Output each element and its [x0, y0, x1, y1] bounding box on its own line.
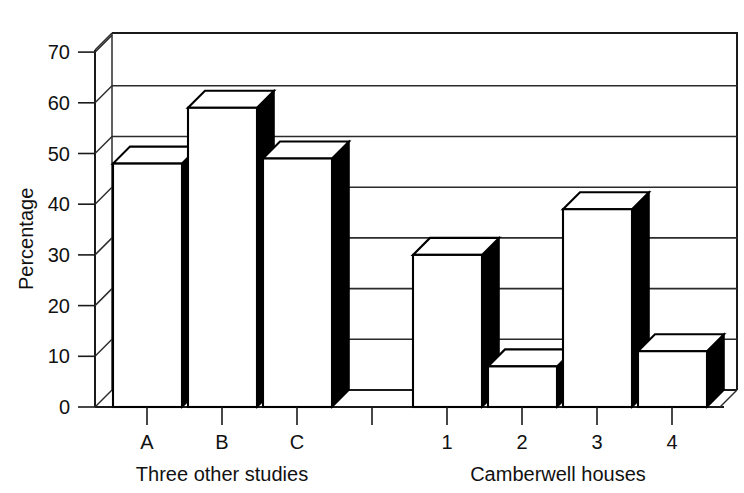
cropped-caption-fragment	[47, 0, 647, 9]
x-axis-ticks	[147, 407, 672, 425]
bar-2-front	[488, 366, 557, 407]
bar-1-front	[413, 255, 482, 407]
bar-4	[638, 334, 724, 407]
group-label-three-other-studies: Three other studies	[136, 463, 308, 485]
ytick-label-60: 60	[48, 92, 70, 114]
bar-C-front	[263, 159, 332, 408]
xlabel-B: B	[215, 431, 228, 453]
xlabel-1: 1	[441, 431, 452, 453]
bar-3-front	[563, 209, 632, 407]
bar-A-front	[113, 164, 182, 407]
y-axis-title: Percentage	[15, 188, 37, 290]
bar-C	[263, 142, 349, 408]
ytick-label-10: 10	[48, 345, 70, 367]
bar-chart-figure: 70 60 50 40 30 20 10 0 Percentage	[0, 0, 744, 493]
y-tick-labels: 70 60 50 40 30 20 10 0	[48, 41, 70, 418]
bar-4-front	[638, 351, 707, 407]
bar-3	[563, 192, 649, 407]
ytick-label-50: 50	[48, 143, 70, 165]
ytick-label-40: 40	[48, 193, 70, 215]
x-category-labels: A B C 1 2 3 4	[140, 431, 677, 453]
bar-A	[113, 147, 199, 407]
xlabel-A: A	[140, 431, 154, 453]
group-labels: Three other studies Camberwell houses	[136, 463, 646, 485]
chart-canvas: 70 60 50 40 30 20 10 0 Percentage	[0, 0, 744, 493]
ytick-label-70: 70	[48, 41, 70, 63]
xlabel-4: 4	[666, 431, 677, 453]
bar-1	[413, 238, 499, 407]
bar-B-front	[188, 108, 257, 407]
bar-B	[188, 91, 274, 407]
bar-C-side	[332, 142, 349, 408]
xlabel-3: 3	[591, 431, 602, 453]
bar-2	[488, 349, 574, 407]
xlabel-C: C	[290, 431, 304, 453]
xlabel-2: 2	[516, 431, 527, 453]
group-label-camberwell-houses: Camberwell houses	[470, 463, 646, 485]
ytick-label-30: 30	[48, 244, 70, 266]
ytick-label-20: 20	[48, 295, 70, 317]
ytick-label-0: 0	[59, 396, 70, 418]
